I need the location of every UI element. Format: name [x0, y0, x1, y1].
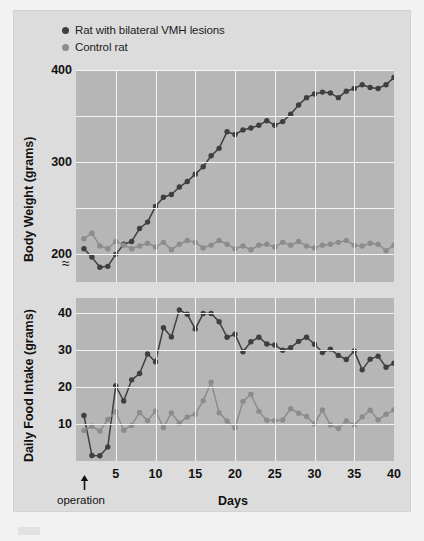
gridline-vertical: [116, 70, 117, 282]
data-point: [97, 265, 102, 270]
data-point: [137, 226, 142, 231]
data-point: [224, 335, 229, 340]
data-point: [185, 414, 190, 419]
gridline-vertical: [156, 70, 157, 282]
data-point: [81, 236, 86, 241]
data-point: [264, 341, 269, 346]
data-point: [185, 179, 190, 184]
data-point: [145, 418, 150, 423]
data-point: [216, 146, 221, 151]
food-intake-plot-area: [76, 298, 394, 461]
data-point: [105, 246, 110, 251]
data-point: [320, 407, 325, 412]
data-point: [81, 413, 86, 418]
data-point: [161, 240, 166, 245]
data-point: [304, 243, 309, 248]
data-point: [185, 238, 190, 243]
data-point: [344, 238, 349, 243]
data-point: [169, 192, 174, 197]
data-point: [367, 85, 372, 90]
legend-item-lesion: Rat with bilateral VMH lesions: [62, 22, 362, 38]
data-point: [280, 240, 285, 245]
data-point: [121, 428, 126, 433]
x-axis-tick-label: 5: [112, 467, 119, 481]
data-point: [304, 414, 309, 419]
data-point: [137, 410, 142, 415]
gridline-vertical: [315, 298, 316, 461]
operation-label: operation: [57, 494, 105, 506]
legend-item-control: Control rat: [62, 39, 362, 55]
operation-arrow-icon: [80, 475, 89, 490]
data-point: [81, 246, 86, 251]
data-point: [129, 246, 134, 251]
legend-marker-control: [62, 44, 69, 51]
data-point: [375, 86, 380, 91]
gridline-vertical: [275, 70, 276, 282]
data-point: [296, 411, 301, 416]
x-axis-title: Days: [218, 494, 248, 508]
data-point: [367, 408, 372, 413]
data-point: [169, 410, 174, 415]
data-point: [89, 453, 94, 458]
data-point: [248, 339, 253, 344]
food-intake-chart: Daily Food Intake (grams) 10203040 51015…: [0, 290, 424, 490]
gridline-vertical: [156, 298, 157, 461]
x-axis-tick-label: 10: [149, 467, 163, 481]
y-axis-tick-label: 10: [32, 418, 72, 431]
data-point: [367, 241, 372, 246]
data-point: [240, 127, 245, 132]
data-point: [208, 379, 213, 384]
gridline-vertical: [354, 70, 355, 282]
data-point: [145, 351, 150, 356]
x-axis-tick-label: 40: [387, 467, 401, 481]
data-point: [344, 357, 349, 362]
data-point: [208, 153, 213, 158]
data-point: [264, 118, 269, 123]
figure-root: Rat with bilateral VMH lesions Control r…: [0, 0, 424, 541]
data-point: [121, 242, 126, 247]
data-point: [105, 264, 110, 269]
data-point: [320, 89, 325, 94]
x-axis-tick-label: 20: [228, 467, 242, 481]
legend-marker-lesion: [62, 27, 69, 34]
axis-break-symbol: ≈: [62, 256, 70, 270]
data-point: [288, 406, 293, 411]
data-point: [208, 242, 213, 247]
data-point: [129, 239, 134, 244]
data-point: [177, 184, 182, 189]
data-point: [97, 243, 102, 248]
gridline-vertical: [315, 70, 316, 282]
data-point: [296, 239, 301, 244]
x-axis-ticks: 510152025303540: [76, 467, 394, 485]
data-point: [169, 334, 174, 339]
data-point: [336, 95, 341, 100]
body-weight-chart: Body Weight (grams) 200300400: [0, 62, 424, 284]
chart-legend: Rat with bilateral VMH lesions Control r…: [62, 22, 362, 56]
data-point: [383, 412, 388, 417]
data-point: [304, 335, 309, 340]
y-axis-tick-label: 400: [32, 64, 72, 77]
data-point: [264, 242, 269, 247]
data-point: [97, 428, 102, 433]
data-point: [97, 453, 102, 458]
data-point: [161, 425, 166, 430]
gridline-vertical: [275, 298, 276, 461]
body-weight-plot-area: [76, 70, 394, 282]
x-axis-tick-label: 30: [308, 467, 322, 481]
data-point: [296, 102, 301, 107]
y-axis-tick-label: 20: [32, 381, 72, 394]
data-point: [224, 242, 229, 247]
data-point: [137, 243, 142, 248]
data-point: [320, 242, 325, 247]
gridline-vertical: [195, 70, 196, 282]
data-point: [360, 367, 365, 372]
data-point: [216, 238, 221, 243]
data-point: [367, 356, 372, 361]
legend-label-control: Control rat: [75, 41, 128, 53]
data-point: [145, 241, 150, 246]
data-point: [288, 242, 293, 247]
data-point: [161, 195, 166, 200]
data-point: [145, 219, 150, 224]
data-point: [177, 242, 182, 247]
data-point: [383, 365, 388, 370]
